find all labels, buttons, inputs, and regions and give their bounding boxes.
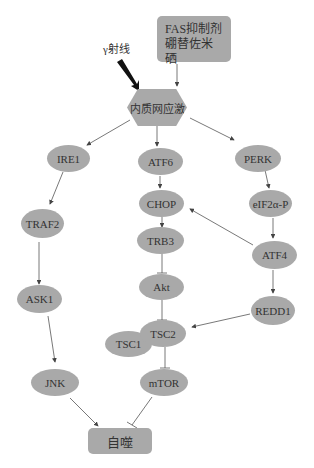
akt-node: Akt xyxy=(139,274,184,300)
ire1-node: IRE1 xyxy=(47,145,90,172)
trb3-node: TRB3 xyxy=(137,227,184,254)
gamma-ray-label: γ射线 xyxy=(103,40,130,56)
redd1-node: REDD1 xyxy=(251,296,295,325)
fas-inhibitor-box: FAS抑制剂 硼替佐米 硒 xyxy=(157,16,231,62)
atf6-node: ATF6 xyxy=(138,148,183,175)
jnk-node: JNK xyxy=(31,369,79,396)
mtor-node: mTOR xyxy=(140,369,188,396)
eif2a-p-node: eIF2α-P xyxy=(249,190,292,217)
chop-node: CHOP xyxy=(139,190,184,217)
perk-node: PERK xyxy=(235,145,281,172)
traf2-node: TRAF2 xyxy=(21,209,64,238)
atf4-node: ATF4 xyxy=(252,241,297,269)
ask1-node: ASK1 xyxy=(17,285,62,313)
gamma-ray-arrow xyxy=(117,59,139,91)
tsc2-node: TSC2 xyxy=(140,320,186,347)
er-stress-node: 内质网应激 xyxy=(127,89,187,126)
autophagy-box: 自噬 xyxy=(88,428,152,454)
